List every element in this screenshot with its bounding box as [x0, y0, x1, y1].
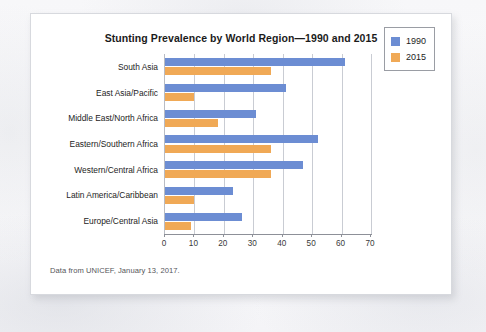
category-label: Western/Central Africa — [31, 157, 164, 183]
bar-1990 — [165, 58, 345, 66]
category-axis-labels: South AsiaEast Asia/PacificMiddle East/N… — [31, 54, 164, 234]
bar-2015 — [165, 222, 191, 230]
category-label: Europe/Central Asia — [31, 208, 164, 234]
bar-group — [165, 105, 372, 131]
bar-group — [165, 183, 372, 209]
legend-swatch-icon — [391, 37, 400, 46]
x-axis-tick — [282, 234, 283, 237]
category-label: Middle East/North Africa — [31, 105, 164, 131]
x-axis-tick — [193, 234, 194, 237]
chart-legend: 19902015 — [384, 27, 435, 71]
bar-group — [165, 54, 372, 80]
x-axis-tick-label: 50 — [307, 239, 316, 248]
bar-1990 — [165, 213, 242, 221]
x-axis-tick-label: 40 — [277, 239, 286, 248]
x-axis-tick-label: 70 — [365, 239, 374, 248]
plot-area — [164, 54, 372, 234]
bar-1990 — [165, 187, 233, 195]
category-label: East Asia/Pacific — [31, 80, 164, 106]
legend-item: 1990 — [391, 33, 426, 49]
x-axis-tick — [164, 234, 165, 237]
bar-2015 — [165, 196, 194, 204]
x-axis-tick-label: 20 — [218, 239, 227, 248]
bar-2015 — [165, 67, 271, 75]
bar-group — [165, 131, 372, 157]
legend-swatch-icon — [391, 53, 400, 62]
x-axis-tick — [223, 234, 224, 237]
category-label: Latin America/Caribbean — [31, 183, 164, 209]
legend-item: 2015 — [391, 49, 426, 65]
legend-label: 2015 — [406, 52, 426, 62]
bar-group — [165, 80, 372, 106]
bar-1990 — [165, 135, 318, 143]
x-axis-tick-label: 60 — [336, 239, 345, 248]
x-axis-tick-label: 30 — [248, 239, 257, 248]
bar-group — [165, 208, 372, 234]
x-axis-tick — [370, 234, 371, 237]
bar-1990 — [165, 84, 286, 92]
category-label: Eastern/Southern Africa — [31, 131, 164, 157]
x-axis-tick — [311, 234, 312, 237]
x-axis-tick — [252, 234, 253, 237]
bar-1990 — [165, 110, 256, 118]
category-label: South Asia — [31, 54, 164, 80]
bar-2015 — [165, 170, 271, 178]
bar-2015 — [165, 93, 194, 101]
bar-2015 — [165, 145, 271, 153]
bar-group — [165, 157, 372, 183]
bar-1990 — [165, 161, 303, 169]
x-axis-tick — [341, 234, 342, 237]
figure-card: Stunting Prevalence by World Region—1990… — [30, 13, 452, 295]
x-axis-tick-label: 0 — [162, 239, 167, 248]
bar-2015 — [165, 119, 218, 127]
source-note: Data from UNICEF, January 13, 2017. — [50, 266, 180, 275]
x-axis-tick-label: 10 — [189, 239, 198, 248]
legend-label: 1990 — [406, 36, 426, 46]
plot-wrapper: South AsiaEast Asia/PacificMiddle East/N… — [31, 54, 453, 259]
